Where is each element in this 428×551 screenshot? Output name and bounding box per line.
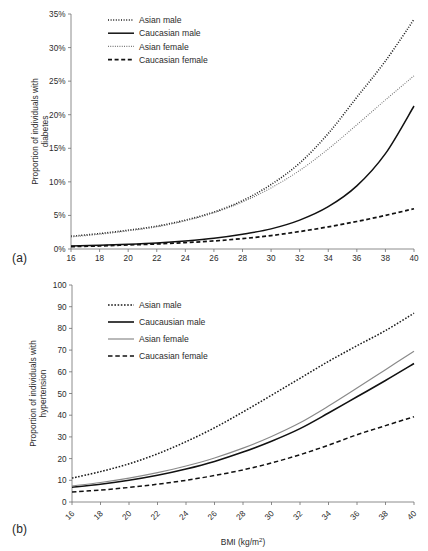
- chart-a-svg: 0%5%10%15%20%25%30%35%161820222426283032…: [0, 0, 428, 278]
- legend-label: Caucasian male: [139, 28, 201, 38]
- x-tick-label: 28: [238, 254, 248, 263]
- x-tick-label: 24: [181, 254, 191, 263]
- y-tick-label: 60: [57, 368, 67, 377]
- x-tick-label: 16: [64, 509, 77, 522]
- y-tick-label: 70: [57, 346, 67, 355]
- x-tick-label: 40: [409, 254, 419, 263]
- y-tick-label: 5%: [54, 211, 66, 220]
- x-tick-label: 26: [209, 254, 219, 263]
- x-tick-label: 18: [92, 509, 105, 522]
- legend-label: Asian male: [139, 300, 182, 310]
- legend-label: Caucausian male: [139, 317, 206, 327]
- x-tick-label: 30: [263, 509, 276, 522]
- x-tick-label: 16: [66, 254, 76, 263]
- series-line: [71, 76, 414, 237]
- series-line: [71, 209, 414, 247]
- x-tick-label: 36: [349, 509, 362, 522]
- y-tick-label: 80: [57, 324, 67, 333]
- x-tick-label: 40: [406, 509, 419, 522]
- x-tick-label: 36: [352, 254, 362, 263]
- y-tick-label: 10: [57, 476, 67, 485]
- legend-label: Caucasian female: [139, 55, 208, 65]
- series-line: [72, 364, 414, 488]
- legend-label: Asian male: [139, 15, 182, 25]
- x-tick-label: 38: [381, 254, 391, 263]
- legend-label: Asian female: [139, 334, 189, 344]
- y-axis-title: Proportion of individuals withhypertensi…: [28, 340, 48, 447]
- x-tick-label: 20: [121, 509, 134, 522]
- x-tick-label: 32: [292, 509, 305, 522]
- chart-panel-b: 0102030405060708090100161820222426283032…: [0, 273, 428, 551]
- x-tick-label: 18: [95, 254, 105, 263]
- series-line: [71, 106, 414, 246]
- y-tick-label: 10%: [49, 178, 65, 187]
- panel-label-b: (b): [12, 522, 27, 536]
- y-axis-title-line1: Proportion of individuals with: [30, 78, 40, 185]
- chart-panel-a: 0%5%10%15%20%25%30%35%161820222426283032…: [0, 0, 428, 278]
- x-tick-label: 28: [235, 509, 248, 522]
- x-tick-label: 34: [320, 509, 333, 522]
- x-tick-label: 34: [324, 254, 334, 263]
- x-axis-title: BMI (kg/m2): [221, 536, 266, 547]
- x-tick-label: 38: [377, 509, 390, 522]
- y-tick-label: 0%: [54, 245, 66, 254]
- y-tick-label: 90: [57, 303, 67, 312]
- figure-container: 0%5%10%15%20%25%30%35%161820222426283032…: [0, 0, 428, 551]
- y-tick-label: 30: [57, 433, 67, 442]
- y-tick-label: 30%: [49, 44, 65, 53]
- series-line: [72, 351, 414, 486]
- y-axis-title-line1: Proportion of individuals with: [28, 340, 38, 447]
- x-axis-title-tail: ): [262, 537, 265, 547]
- y-tick-label: 20%: [49, 111, 65, 120]
- legend-label: Caucasian female: [139, 351, 208, 361]
- y-tick-label: 40: [57, 411, 67, 420]
- legend-label: Asian female: [139, 42, 189, 52]
- x-tick-label: 30: [267, 254, 277, 263]
- y-axis-title-line2: diabetes: [40, 116, 50, 148]
- y-tick-label: 50: [57, 390, 67, 399]
- y-tick-label: 20: [57, 455, 67, 464]
- series-line: [71, 19, 414, 236]
- x-tick-label: 22: [149, 509, 162, 522]
- panel-label-a: (a): [12, 251, 27, 265]
- series-line: [72, 313, 414, 478]
- y-tick-label: 100: [53, 281, 67, 290]
- x-tick-label: 26: [206, 509, 219, 522]
- chart-b-svg: 0102030405060708090100161820222426283032…: [0, 273, 428, 551]
- y-tick-label: 15%: [49, 144, 65, 153]
- x-tick-label: 24: [178, 509, 191, 522]
- x-tick-label: 20: [124, 254, 134, 263]
- x-tick-label: 32: [295, 254, 305, 263]
- x-tick-label: 22: [152, 254, 162, 263]
- y-axis-title: Proportion of individuals withdiabetes: [30, 78, 50, 185]
- y-axis-title-line2: hypertension: [38, 369, 48, 417]
- y-tick-label: 35%: [49, 10, 65, 19]
- x-axis-title-base: BMI (kg/m: [221, 537, 259, 547]
- y-tick-label: 0: [62, 498, 67, 507]
- y-tick-label: 25%: [49, 77, 65, 86]
